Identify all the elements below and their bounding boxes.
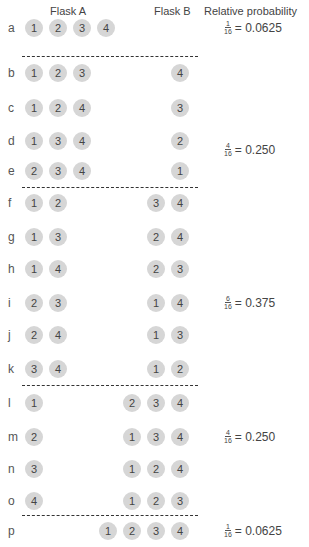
molecule-ball-flask-b: 1: [147, 294, 165, 312]
molecule-ball-flask-b: 3: [171, 99, 189, 117]
molecule-ball-flask-a: 3: [73, 19, 91, 37]
molecule-ball-flask-a: 4: [73, 99, 91, 117]
molecule-ball-flask-a: 4: [49, 260, 67, 278]
molecule-ball-flask-b: 1: [123, 460, 141, 478]
row-label: j: [8, 328, 20, 342]
molecule-ball-flask-a: 2: [49, 194, 67, 212]
row-label: o: [8, 494, 20, 508]
row-label: n: [8, 462, 20, 476]
molecule-ball-flask-a: 3: [49, 294, 67, 312]
molecule-ball-flask-a: 1: [25, 64, 43, 82]
molecule-ball-flask-a: 1: [25, 260, 43, 278]
molecule-ball-flask-b: 1: [147, 360, 165, 378]
molecule-ball-flask-b: 3: [147, 522, 165, 540]
fraction-denominator: 16: [224, 437, 232, 444]
header-flask-a: Flask A: [50, 5, 86, 17]
header-flask-b: Flask B: [154, 5, 191, 17]
molecule-ball-flask-a: 4: [25, 492, 43, 510]
molecule-ball-flask-b: 2: [147, 460, 165, 478]
molecule-ball-flask-a: 2: [25, 428, 43, 446]
molecule-ball-flask-a: 1: [25, 228, 43, 246]
molecule-ball-flask-b: 2: [123, 522, 141, 540]
fraction: 416: [224, 142, 232, 157]
row-label: b: [8, 66, 20, 80]
molecule-ball-flask-a: 1: [25, 99, 43, 117]
fraction-denominator: 16: [224, 303, 232, 310]
molecule-ball-flask-a: 4: [49, 326, 67, 344]
molecule-ball-flask-b: 1: [123, 492, 141, 510]
fraction-numerator: 1: [225, 20, 231, 28]
row-label: e: [8, 164, 20, 178]
molecule-ball-flask-b: 3: [171, 492, 189, 510]
row-label: d: [8, 134, 20, 148]
molecule-ball-flask-a: 2: [49, 99, 67, 117]
molecule-ball-flask-b: 1: [171, 162, 189, 180]
row-label: h: [8, 262, 20, 276]
probability-value: = 0.250: [235, 430, 275, 444]
molecule-ball-flask-b: 2: [147, 260, 165, 278]
probability-value: = 0.375: [235, 296, 275, 310]
molecule-ball-flask-a: 3: [49, 132, 67, 150]
fraction: 416: [224, 429, 232, 444]
molecule-ball-flask-b: 3: [171, 260, 189, 278]
probability-value: = 0.0625: [235, 21, 282, 35]
molecule-ball-flask-a: 2: [49, 19, 67, 37]
molecule-ball-flask-b: 1: [123, 428, 141, 446]
row-label: c: [8, 101, 20, 115]
row-label: l: [8, 396, 20, 410]
molecule-ball-flask-b: 2: [171, 360, 189, 378]
group-divider-line: [22, 187, 198, 188]
probability-value: = 0.250: [235, 143, 275, 157]
row-label: p: [8, 524, 20, 538]
fraction-numerator: 4: [225, 142, 231, 150]
molecule-ball-flask-b: 4: [171, 194, 189, 212]
molecule-ball-flask-a: 4: [73, 162, 91, 180]
molecule-ball-flask-b: 1: [147, 326, 165, 344]
molecule-ball-flask-b: 1: [99, 522, 117, 540]
molecule-ball-flask-a: 1: [25, 194, 43, 212]
molecule-ball-flask-a: 4: [97, 19, 115, 37]
probability-value: = 0.0625: [235, 524, 282, 538]
fraction: 116: [224, 20, 232, 35]
molecule-ball-flask-a: 3: [49, 228, 67, 246]
molecule-ball-flask-b: 4: [171, 428, 189, 446]
molecule-ball-flask-b: 3: [147, 194, 165, 212]
molecule-ball-flask-b: 2: [123, 394, 141, 412]
group-divider-line: [22, 385, 198, 386]
molecule-ball-flask-b: 4: [171, 294, 189, 312]
molecule-ball-flask-b: 2: [171, 132, 189, 150]
fraction: 116: [224, 523, 232, 538]
fraction: 616: [224, 295, 232, 310]
molecule-ball-flask-a: 2: [25, 294, 43, 312]
molecule-ball-flask-a: 2: [25, 326, 43, 344]
molecule-ball-flask-b: 2: [147, 228, 165, 246]
molecule-ball-flask-a: 3: [73, 64, 91, 82]
fraction-numerator: 4: [225, 429, 231, 437]
molecule-ball-flask-b: 4: [171, 228, 189, 246]
molecule-ball-flask-a: 3: [25, 360, 43, 378]
fraction-denominator: 16: [224, 531, 232, 538]
molecule-ball-flask-a: 3: [49, 162, 67, 180]
fraction-denominator: 16: [224, 150, 232, 157]
molecule-ball-flask-b: 4: [171, 64, 189, 82]
molecule-ball-flask-b: 4: [171, 394, 189, 412]
probability-label: 416= 0.250: [224, 429, 275, 444]
molecule-ball-flask-a: 2: [49, 64, 67, 82]
molecule-ball-flask-a: 4: [49, 360, 67, 378]
molecule-ball-flask-b: 3: [171, 326, 189, 344]
header-relative-probability: Relative probability: [204, 5, 297, 17]
probability-label: 416= 0.250: [224, 142, 275, 157]
row-label: a: [8, 21, 20, 35]
molecule-ball-flask-b: 3: [147, 394, 165, 412]
molecule-ball-flask-b: 3: [147, 428, 165, 446]
group-divider-line: [22, 56, 198, 57]
molecule-ball-flask-a: 2: [25, 162, 43, 180]
row-label: f: [8, 196, 20, 210]
probability-label: 116= 0.0625: [224, 523, 282, 538]
group-divider-line: [22, 515, 198, 516]
row-label: i: [8, 296, 20, 310]
row-label: m: [8, 430, 20, 444]
fraction-numerator: 1: [225, 523, 231, 531]
molecule-ball-flask-a: 1: [25, 394, 43, 412]
molecule-ball-flask-b: 2: [147, 492, 165, 510]
